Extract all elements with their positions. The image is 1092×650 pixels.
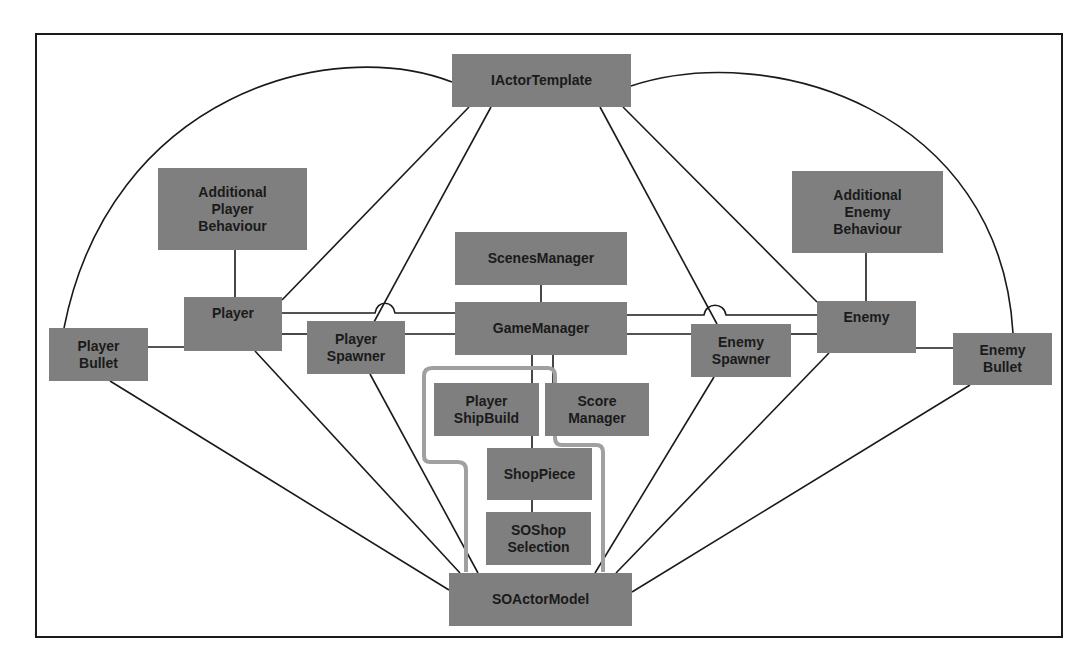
node-label: Player — [335, 331, 377, 348]
node-player-spawner[interactable]: Player Spawner — [307, 321, 405, 374]
node-label: Player — [77, 338, 119, 355]
node-soshop-selection[interactable]: SOShop Selection — [486, 512, 591, 565]
edge-gamemanager-enemy — [627, 305, 817, 315]
node-label: Bullet — [983, 359, 1022, 376]
node-label: Enemy — [980, 342, 1026, 359]
node-scenes-manager[interactable]: ScenesManager — [455, 232, 627, 285]
node-additional-player-behaviour[interactable]: Additional Player Behaviour — [158, 168, 307, 250]
node-label: Score — [578, 393, 617, 410]
node-label: ScenesManager — [488, 250, 595, 267]
node-game-manager[interactable]: GameManager — [455, 302, 627, 355]
node-additional-enemy-behaviour[interactable]: Additional Enemy Behaviour — [792, 171, 943, 253]
node-label: Behaviour — [833, 221, 901, 238]
node-player-bullet[interactable]: Player Bullet — [49, 328, 148, 381]
node-label: GameManager — [493, 320, 589, 337]
node-label: Behaviour — [198, 218, 266, 235]
edge-player-gamemanager — [282, 303, 455, 313]
node-label: Additional — [833, 187, 901, 204]
node-enemy[interactable]: Enemy — [817, 301, 916, 353]
node-label: Enemy — [845, 204, 891, 221]
node-player[interactable]: Player — [184, 297, 282, 351]
edge-enemy-bullet-soactor — [632, 385, 970, 592]
edge-iactor-enemy-spawner — [600, 107, 717, 324]
edge-iactor-player — [282, 107, 469, 300]
node-label: Spawner — [712, 351, 770, 368]
node-shop-piece[interactable]: ShopPiece — [487, 448, 592, 500]
node-label: ShipBuild — [454, 410, 519, 427]
node-label: Player — [211, 201, 253, 218]
node-label: SOActorModel — [492, 591, 589, 608]
node-label: SOShop — [511, 522, 566, 539]
node-soactor-model[interactable]: SOActorModel — [449, 573, 632, 626]
node-label: IActorTemplate — [491, 72, 592, 89]
diagram-canvas: IActorTemplate Additional Player Behavio… — [0, 0, 1092, 650]
node-label: Player — [212, 305, 254, 322]
node-score-manager[interactable]: Score Manager — [545, 383, 649, 436]
node-label: Additional — [198, 184, 266, 201]
node-label: Selection — [507, 539, 569, 556]
node-label: Enemy — [844, 309, 890, 326]
node-iactor-template[interactable]: IActorTemplate — [452, 54, 631, 107]
edge-player-bullet-soactor — [110, 381, 449, 590]
node-label: ShopPiece — [504, 466, 576, 483]
node-player-shipbuild[interactable]: Player ShipBuild — [434, 383, 539, 436]
node-label: Player — [465, 393, 507, 410]
edge-iactor-player-spawner — [374, 107, 491, 322]
node-label: Spawner — [327, 348, 385, 365]
node-label: Bullet — [79, 355, 118, 372]
node-enemy-spawner[interactable]: Enemy Spawner — [691, 324, 791, 377]
node-label: Enemy — [718, 334, 764, 351]
node-label: Manager — [568, 410, 626, 427]
node-enemy-bullet[interactable]: Enemy Bullet — [953, 333, 1052, 385]
